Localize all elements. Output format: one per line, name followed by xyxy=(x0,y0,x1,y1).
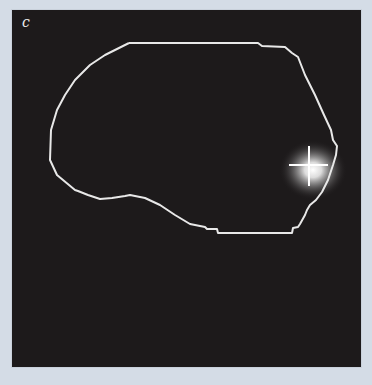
region-outline xyxy=(50,43,337,233)
image-overlay xyxy=(0,0,372,385)
